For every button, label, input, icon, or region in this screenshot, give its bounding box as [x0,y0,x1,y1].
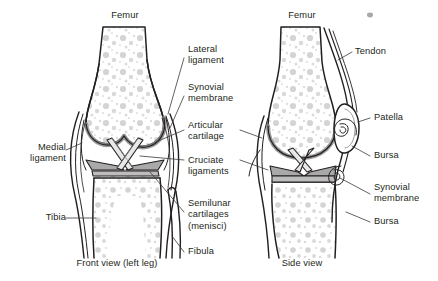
label-patella: Patella [374,112,403,123]
side-view-knee [249,27,359,258]
label-medial-ligament: Medial ligament [2,142,66,165]
tibia-front [94,176,161,258]
label-fibula: Fibula [188,246,214,257]
knee-joint-diagram: Femur Femur Medial ligament Tibia Latera… [0,0,438,281]
caption-front-view: Front view (left leg) [52,258,182,269]
label-bursa-lower: Bursa [374,216,399,227]
label-semilunar-cartilages: Semilunar cartilages (menisci) [188,198,231,232]
label-cruciate-ligaments: Cruciate ligaments [188,155,229,178]
front-view-knee [71,27,181,258]
label-articular-cartilage: Articular cartilage [188,120,224,143]
caption-side-view: Side view [252,258,352,269]
tibial-cartilage-front [92,171,159,176]
femur-side [268,27,336,158]
femur-front [86,27,164,146]
label-bursa-upper: Bursa [374,150,399,161]
label-synovial-membrane: Synovial membrane [188,82,233,105]
tibia-side [272,182,335,258]
title-femur-side: Femur [265,10,339,21]
artifact-speck [367,13,373,18]
title-femur-front: Femur [88,10,162,21]
fibula-front [168,190,172,258]
label-tibia: Tibia [2,212,66,223]
tibial-cartilage-side [272,176,335,182]
medial-ligament-front [71,112,88,258]
label-synovial-membrane-side: Synovial membrane [374,182,419,205]
label-lateral-ligament: Lateral ligament [188,44,224,67]
label-tendon: Tendon [355,46,386,57]
